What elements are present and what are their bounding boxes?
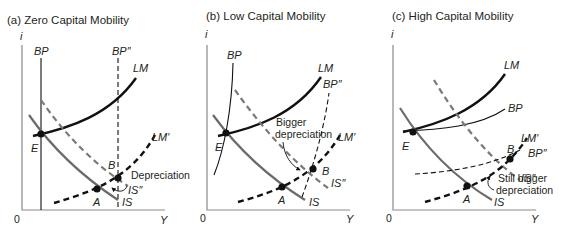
panel-a-is-shifted-curve: [41, 100, 128, 186]
panel-c-note-line1: Still bigger: [498, 172, 548, 184]
panel-a-is-label: IS: [122, 196, 133, 208]
panel-a-lm-label: LM: [133, 62, 149, 74]
panel-b-bp-shifted-curve: [302, 93, 329, 197]
panel-b-point-b-label: B: [322, 165, 329, 177]
panel-b-point-e-label: E: [215, 141, 223, 153]
panel-c-lm-curve: [403, 74, 505, 132]
panel-b-lm-label: LM: [318, 62, 334, 74]
panel-c-x-axis-label: Y: [531, 213, 539, 225]
panel-a-lm-shifted-label: LM′: [152, 131, 170, 143]
figure-canvas: (a) Zero Capital Mobility i 0 Y BP BP″ L…: [0, 0, 567, 230]
panel-high-capital-mobility: (c) High Capital Mobility i 0 Y LM BP IS…: [386, 10, 553, 225]
panel-b-point-e: [222, 129, 229, 136]
panel-c-point-a: [463, 182, 470, 189]
panel-a-arrow-icon: [112, 186, 127, 191]
panel-c-arrow-icon: [488, 176, 494, 190]
panel-b-is-shifted-label: IS″: [331, 177, 346, 189]
panel-c-bp-label: BP: [508, 102, 523, 114]
panel-a-is-curve: [29, 115, 118, 200]
panel-a-point-a: [93, 185, 100, 192]
panel-c-title: (c) High Capital Mobility: [392, 10, 514, 22]
panel-c-origin-label: 0: [386, 212, 392, 224]
panel-c-note-line2: depreciation: [496, 184, 553, 196]
panel-c-lm-label: LM: [504, 59, 520, 71]
panel-c-is-label: IS: [494, 196, 505, 208]
panel-c-bp-shifted-curve: [415, 150, 520, 174]
panel-b-x-axis-label: Y: [346, 213, 354, 225]
panel-a-is-shifted-label: IS″: [128, 184, 143, 196]
panel-a-y-axis-label: i: [20, 30, 23, 42]
panel-c-y-axis-label: i: [391, 28, 394, 40]
panel-a-point-b-label: B: [108, 159, 115, 171]
panel-b-arrow-icon: [283, 142, 300, 170]
panel-a-x-axis-label: Y: [160, 214, 168, 226]
panel-c-lm-shifted-label: LM′: [521, 132, 539, 144]
panel-a-bp-label: BP: [34, 45, 49, 57]
panel-a-origin-label: 0: [14, 213, 20, 225]
panel-a-bp-shifted-label: BP″: [112, 45, 132, 57]
panel-c-point-e: [409, 128, 416, 135]
panel-b-bp-label: BP: [227, 49, 242, 61]
panel-b-bp-shifted-label: BP″: [323, 78, 343, 90]
panel-zero-capital-mobility: (a) Zero Capital Mobility i 0 Y BP BP″ L…: [7, 14, 190, 226]
panel-c-bp-shifted-label: BP″: [528, 147, 548, 159]
panel-low-capital-mobility: (b) Low Capital Mobility i 0 Y BP LM BP″…: [200, 10, 356, 225]
panel-b-point-a-label: A: [277, 194, 285, 206]
panel-a-lm-curve: [33, 78, 136, 136]
panel-b-lm-shifted-label: LM′: [338, 131, 356, 143]
panel-b-point-b: [309, 165, 316, 172]
panel-b-note-line2: depreciation: [275, 128, 332, 140]
panel-a-depreciation-note: Depreciation: [131, 169, 190, 181]
panel-b-point-a: [278, 183, 285, 190]
panel-b-is-label: IS: [309, 196, 320, 208]
panel-a-point-e: [37, 130, 44, 137]
panel-b-note-line1: Bigger: [276, 116, 307, 128]
panel-c-point-b-label: B: [507, 143, 514, 155]
panel-a-point-b: [114, 174, 121, 181]
panel-c-point-e-label: E: [402, 140, 410, 152]
panel-b-title: (b) Low Capital Mobility: [206, 10, 326, 22]
panel-c-point-a-label: A: [462, 193, 470, 205]
panel-b-y-axis-label: i: [205, 28, 208, 40]
panel-a-title: (a) Zero Capital Mobility: [7, 14, 129, 26]
panel-a-point-a-label: A: [92, 196, 100, 208]
panel-c-point-b: [506, 155, 513, 162]
panel-a-point-e-label: E: [31, 142, 39, 154]
panel-b-origin-label: 0: [200, 212, 206, 224]
